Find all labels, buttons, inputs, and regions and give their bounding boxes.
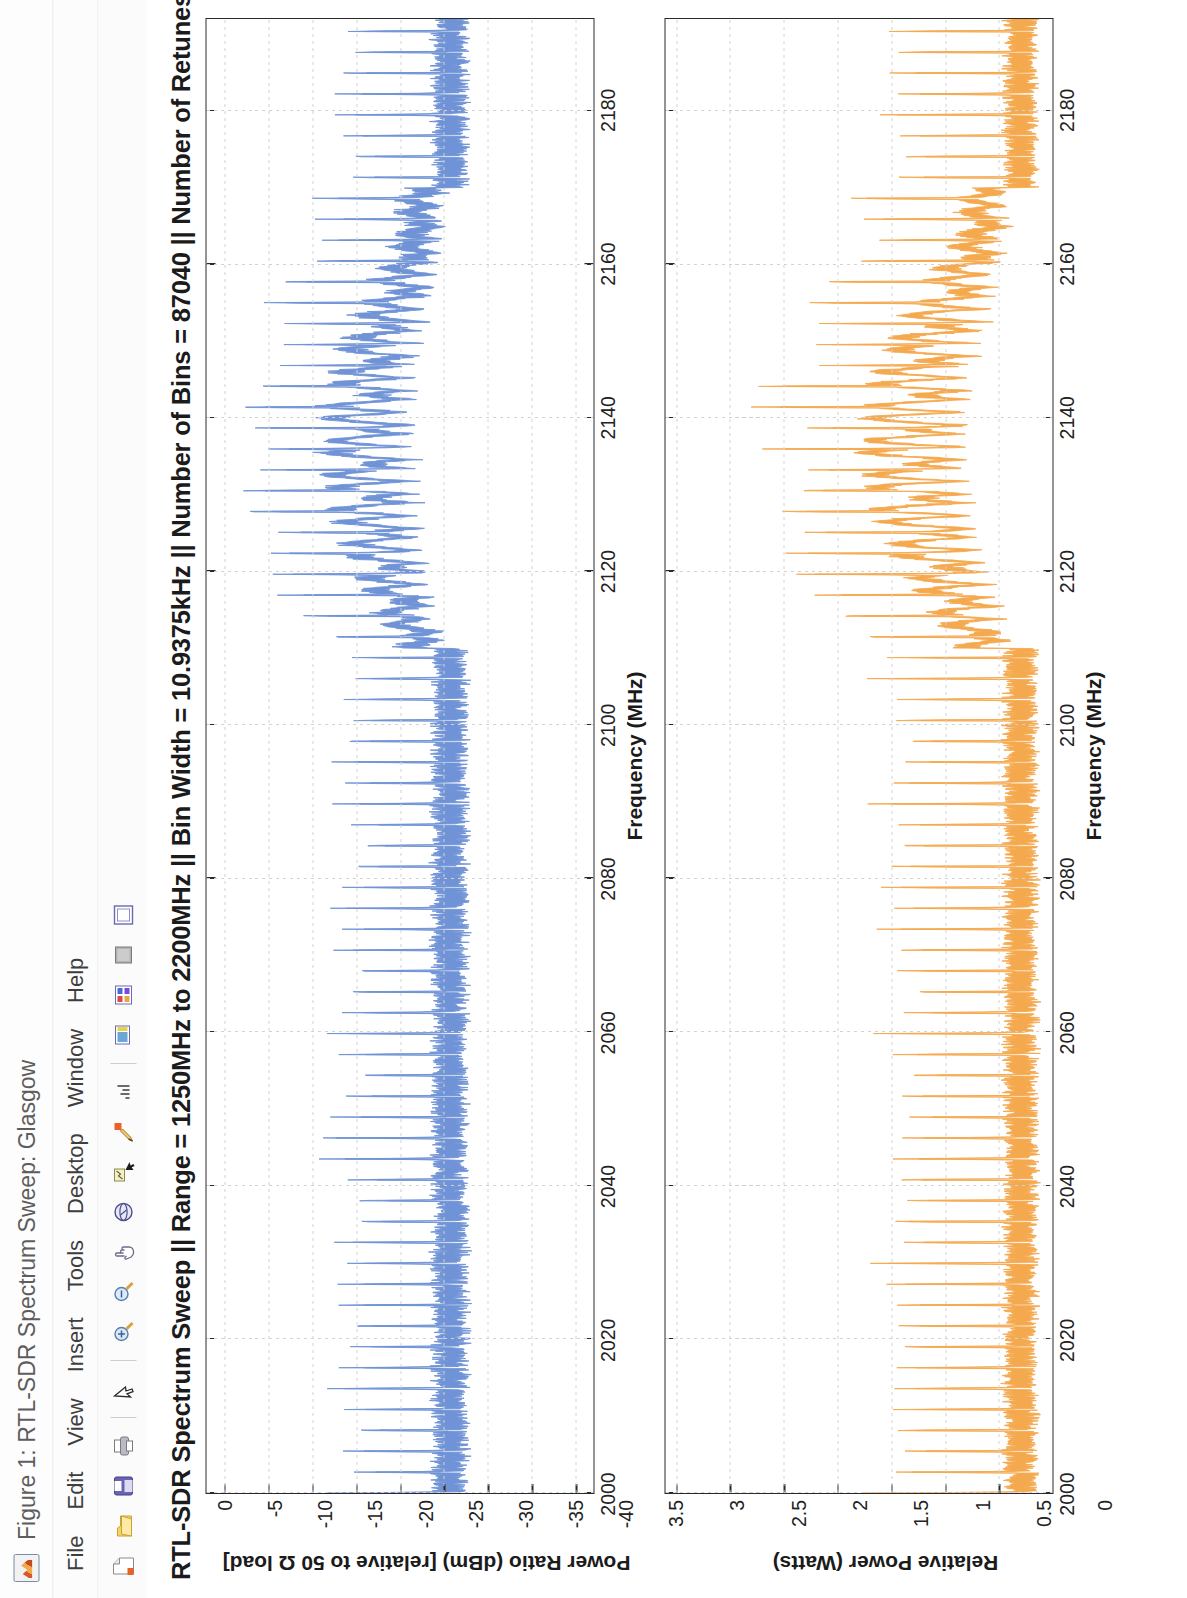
- subplot-power-ratio-dbm: Power Ratio (dBm) [relative to 50 Ω load…: [205, 18, 646, 1580]
- subplot-1-ytick-labels: 0-5-10-15-20-25-30-35-40: [205, 1494, 646, 1546]
- grid-line-h: [356, 19, 357, 1493]
- toolbar-separator: [110, 1063, 136, 1064]
- grid-line-v: [206, 878, 593, 879]
- ytick-label: 0: [1094, 1500, 1117, 1511]
- grid-line-h: [783, 19, 784, 1493]
- grid-line-v: [206, 110, 593, 111]
- xtick-label: 2180: [1055, 89, 1078, 132]
- grid-line-h: [443, 19, 444, 1493]
- grid-line-h: [837, 19, 838, 1493]
- menu-item-window[interactable]: Window: [58, 1016, 92, 1120]
- figure-palette-icon[interactable]: [106, 898, 140, 932]
- subplot-2-ylabel: Relative Power (Watts): [772, 1551, 998, 1575]
- xtick-label: 2040: [1055, 1165, 1078, 1208]
- title-bar: Figure 1: RTL-SDR Spectrum Sweep: Glasgo…: [0, 0, 53, 1598]
- ytick-label: 0.5: [1032, 1500, 1055, 1527]
- link-plot-icon[interactable]: [106, 1075, 140, 1109]
- xtick-label: 2120: [596, 550, 619, 593]
- grid-line-v: [665, 1338, 1052, 1339]
- menu-item-insert[interactable]: Insert: [58, 1304, 92, 1385]
- xtick-label: 2060: [1055, 1011, 1078, 1054]
- grid-line-v: [665, 110, 1052, 111]
- grid-line-h: [268, 19, 269, 1493]
- ytick-label: -5: [264, 1500, 287, 1517]
- edit-plot-icon[interactable]: [106, 1372, 140, 1406]
- grid-line-v: [206, 571, 593, 572]
- plot-browser-icon[interactable]: [106, 938, 140, 972]
- menu-item-file[interactable]: File: [58, 1523, 92, 1584]
- grid-line-v: [206, 1492, 593, 1493]
- pan-icon[interactable]: [106, 1235, 140, 1269]
- xtick-label: 2000: [1055, 1472, 1078, 1515]
- grid-line-h: [945, 19, 946, 1493]
- subplot-2-trace: [665, 19, 1052, 1493]
- plot-title: RTL-SDR Spectrum Sweep || Range = 1250MH…: [166, 18, 195, 1580]
- ytick-label: 2.5: [787, 1500, 810, 1527]
- xtick-label: 2180: [596, 89, 619, 132]
- grid-line-v: [206, 1338, 593, 1339]
- grid-line-v: [665, 417, 1052, 418]
- grid-line-v: [206, 1185, 593, 1186]
- xtick-label: 2020: [1055, 1319, 1078, 1362]
- subplot-1-plot-area[interactable]: [205, 18, 594, 1494]
- grid-line-h: [224, 19, 225, 1493]
- subplot-1-ylabel-wrap: Power Ratio (dBm) [relative to 50 Ω load…: [205, 1546, 646, 1580]
- ytick-label: -10: [314, 1500, 337, 1528]
- xtick-label: 2120: [1055, 550, 1078, 593]
- insert-colorbar-icon[interactable]: [106, 1018, 140, 1052]
- menu-item-edit[interactable]: Edit: [58, 1459, 92, 1523]
- subplot-2-ylabel-wrap: Relative Power (Watts): [664, 1546, 1105, 1580]
- xtick-label: 2000: [596, 1472, 619, 1515]
- ytick-label: 0: [214, 1500, 237, 1511]
- tool-bar: [98, 0, 149, 1598]
- matlab-figure-icon: [13, 1554, 39, 1582]
- menu-item-view[interactable]: View: [58, 1385, 92, 1458]
- xtick-label: 2060: [596, 1011, 619, 1054]
- rotate-3d-icon[interactable]: [106, 1195, 140, 1229]
- data-cursor-icon[interactable]: [106, 1155, 140, 1189]
- new-figure-icon[interactable]: [106, 1549, 140, 1583]
- grid-line-h: [400, 19, 401, 1493]
- save-figure-icon[interactable]: [106, 1469, 140, 1503]
- menu-item-tools[interactable]: Tools: [58, 1227, 92, 1304]
- menu-item-help[interactable]: Help: [58, 945, 92, 1016]
- subplot-1-ylabel: Power Ratio (dBm) [relative to 50 Ω load…: [222, 1551, 630, 1575]
- xtick-label: 2160: [1055, 242, 1078, 285]
- menu-item-desktop[interactable]: Desktop: [58, 1120, 92, 1227]
- xtick-label: 2040: [596, 1165, 619, 1208]
- print-figure-icon[interactable]: [106, 1429, 140, 1463]
- ytick-label: 1: [971, 1500, 994, 1511]
- grid-line-v: [206, 1031, 593, 1032]
- matlab-figure-window: Figure 1: RTL-SDR Spectrum Sweep: Glasgo…: [0, 0, 1187, 1598]
- grid-line-h: [575, 19, 576, 1493]
- ytick-label: 1.5: [910, 1500, 933, 1527]
- xtick-label: 2020: [596, 1319, 619, 1362]
- zoom-out-icon[interactable]: [106, 1275, 140, 1309]
- subplot-1-xtick-labels: 2000202020402060208021002120214021602180: [594, 18, 620, 1494]
- grid-line-v: [206, 264, 593, 265]
- menu-bar: File Edit View Insert Tools Desktop Wind…: [53, 0, 98, 1598]
- grid-line-v: [665, 1031, 1052, 1032]
- ytick-label: 3: [726, 1500, 749, 1511]
- toolbar-separator: [110, 1360, 136, 1361]
- insert-legend-icon[interactable]: [106, 978, 140, 1012]
- zoom-in-icon[interactable]: [106, 1315, 140, 1349]
- ytick-label: -15: [364, 1500, 387, 1528]
- xtick-label: 2080: [596, 857, 619, 900]
- figure-canvas: RTL-SDR Spectrum Sweep || Range = 1250MH…: [146, 0, 1187, 1598]
- ytick-label: -30: [514, 1500, 537, 1528]
- brush-icon[interactable]: [106, 1115, 140, 1149]
- grid-line-h: [729, 19, 730, 1493]
- open-file-icon[interactable]: [106, 1509, 140, 1543]
- xtick-label: 2160: [596, 242, 619, 285]
- grid-line-v: [665, 1185, 1052, 1186]
- ytick-label: 3.5: [665, 1500, 688, 1527]
- grid-line-h: [891, 19, 892, 1493]
- xtick-label: 2100: [596, 704, 619, 747]
- subplot-2-plot-area[interactable]: [664, 18, 1053, 1494]
- ytick-label: -25: [464, 1500, 487, 1528]
- grid-line-v: [665, 724, 1052, 725]
- grid-line-v: [665, 1492, 1052, 1493]
- subplot-2-ytick-labels: 00.511.522.533.5: [664, 1494, 1105, 1546]
- xtick-label: 2140: [596, 396, 619, 439]
